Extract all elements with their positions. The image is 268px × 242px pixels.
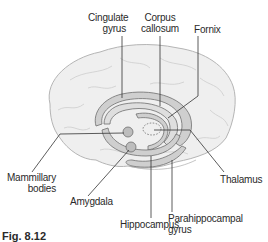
brain-diagram (0, 0, 268, 242)
label-line: Cingulate (88, 12, 126, 23)
label-line: gyrus (88, 23, 126, 34)
label-thalamus: Thalamus (220, 174, 262, 185)
label-corpus-callosum: Corpus callosum (140, 12, 180, 34)
label-fornix: Fornix (194, 24, 221, 35)
figure-caption: Fig. 8.12 (2, 230, 46, 242)
label-line: Parahippocampal (168, 213, 243, 224)
label-line: bodies (6, 183, 56, 194)
label-line: callosum (140, 23, 180, 34)
label-parahippocampal-gyrus: Parahippocampal gyrus (168, 213, 243, 235)
label-line: Mammillary (6, 172, 56, 183)
figure-number: Fig. 8.12 (2, 230, 46, 242)
label-mammillary-bodies: Mammillary bodies (6, 172, 56, 194)
label-amygdala: Amygdala (70, 196, 113, 207)
label-cingulate-gyrus: Cingulate gyrus (88, 12, 126, 34)
amygdala-shape (126, 142, 136, 152)
mammillary-body-shape (123, 127, 133, 137)
label-line: Corpus (140, 12, 180, 23)
label-line: gyrus (168, 224, 243, 235)
